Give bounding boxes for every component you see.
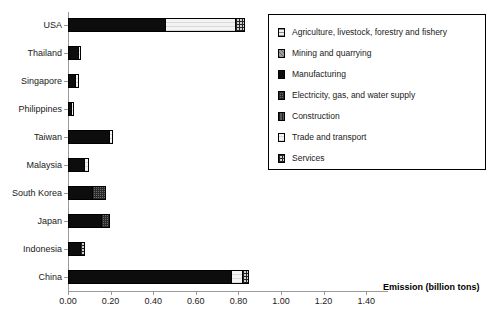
- bar-segment-trade[interactable]: [75, 75, 77, 87]
- bar-segment-manufacturing[interactable]: [69, 19, 165, 31]
- x-axis-tick: [68, 291, 69, 295]
- bar-segment-electricity[interactable]: [101, 215, 110, 227]
- bar-segment-manufacturing[interactable]: [69, 47, 78, 59]
- stacked-bar[interactable]: [68, 242, 85, 256]
- stacked-bar[interactable]: [68, 130, 113, 144]
- stacked-bar[interactable]: [68, 102, 74, 116]
- legend-swatch-trade-icon: [278, 133, 285, 142]
- legend-item[interactable]: Agriculture, livestock, forestry and fis…: [269, 22, 485, 43]
- legend-swatch-agriculture-icon: [278, 28, 285, 37]
- bar-segment-trade[interactable]: [78, 47, 80, 59]
- category-label-philippines: Philippines: [0, 96, 62, 122]
- legend-swatch-construction-icon: [278, 112, 285, 121]
- category-label-singapore: Singapore: [0, 68, 62, 94]
- x-axis-tick: [366, 291, 367, 295]
- x-axis-tick-label: 1.00: [261, 296, 301, 306]
- bar-segment-manufacturing[interactable]: [69, 243, 80, 255]
- x-axis-tick-label: 1.40: [346, 296, 386, 306]
- stacked-bar[interactable]: [68, 74, 79, 88]
- legend-item[interactable]: Manufacturing: [269, 64, 485, 85]
- x-axis-tick: [196, 291, 197, 295]
- stacked-bar[interactable]: [68, 18, 245, 32]
- bar-segment-manufacturing[interactable]: [69, 159, 84, 171]
- category-label-japan: Japan: [0, 208, 62, 234]
- category-label-china: China: [0, 264, 62, 290]
- bar-segment-trade[interactable]: [84, 159, 88, 171]
- x-axis-tick-label: 0.00: [48, 296, 88, 306]
- legend-box: Agriculture, livestock, forestry and fis…: [268, 14, 486, 170]
- category-label-taiwan: Taiwan: [0, 124, 62, 150]
- bar-segment-manufacturing[interactable]: [69, 215, 101, 227]
- legend-swatch-mining-icon: [278, 49, 285, 58]
- x-axis-tick-label: 0.80: [218, 296, 258, 306]
- legend-label: Construction: [292, 112, 340, 121]
- legend-item[interactable]: Services: [269, 148, 485, 169]
- stacked-bar[interactable]: [68, 46, 81, 60]
- bar-segment-trade[interactable]: [71, 103, 73, 115]
- legend-label: Manufacturing: [292, 70, 346, 79]
- bar-segment-services[interactable]: [242, 271, 248, 283]
- stacked-bar[interactable]: [68, 158, 89, 172]
- x-axis-line: [68, 291, 388, 292]
- legend-label: Electricity, gas, and water supply: [292, 91, 415, 100]
- x-axis-tick-label: 0.40: [133, 296, 173, 306]
- category-label-south-korea: South Korea: [0, 180, 62, 206]
- legend-swatch-electricity-icon: [278, 91, 285, 100]
- category-label-usa: USA: [0, 12, 62, 38]
- x-axis-tick: [111, 291, 112, 295]
- bar-segment-trade[interactable]: [231, 271, 242, 283]
- legend-item[interactable]: Mining and quarrying: [269, 43, 485, 64]
- x-axis-tick-label: 0.60: [176, 296, 216, 306]
- x-axis-tick-label: 1.20: [304, 296, 344, 306]
- bar-segment-trade[interactable]: [165, 19, 235, 31]
- stacked-bar[interactable]: [68, 186, 106, 200]
- x-axis-title: Emission (billion tons): [383, 282, 480, 292]
- bar-segment-manufacturing[interactable]: [69, 271, 231, 283]
- bar-segment-manufacturing[interactable]: [69, 187, 92, 199]
- stacked-bar[interactable]: [68, 270, 249, 284]
- legend-item[interactable]: Electricity, gas, and water supply: [269, 85, 485, 106]
- bar-segment-electricity[interactable]: [92, 187, 105, 199]
- bar-segment-trade[interactable]: [109, 131, 111, 143]
- legend-item[interactable]: Construction: [269, 106, 485, 127]
- legend-label: Services: [292, 154, 325, 163]
- x-axis-tick: [324, 291, 325, 295]
- legend-swatch-services-icon: [278, 154, 285, 163]
- category-label-malaysia: Malaysia: [0, 152, 62, 178]
- bar-segment-services[interactable]: [235, 19, 244, 31]
- bar-segment-services[interactable]: [80, 243, 84, 255]
- legend-label: Agriculture, livestock, forestry and fis…: [292, 28, 447, 37]
- x-axis-tick: [281, 291, 282, 295]
- legend-label: Trade and transport: [292, 133, 366, 142]
- category-label-indonesia: Indonesia: [0, 236, 62, 262]
- legend-swatch-manufacturing-icon: [278, 70, 285, 79]
- legend-item[interactable]: Trade and transport: [269, 127, 485, 148]
- stacked-bar[interactable]: [68, 214, 110, 228]
- x-axis-tick-label: 0.20: [91, 296, 131, 306]
- legend-items: Agriculture, livestock, forestry and fis…: [269, 22, 485, 169]
- chart-root: USAThailandSingaporePhilippinesTaiwanMal…: [0, 0, 493, 324]
- bar-segment-manufacturing[interactable]: [69, 131, 109, 143]
- x-axis-tick: [238, 291, 239, 295]
- legend-label: Mining and quarrying: [292, 49, 371, 58]
- x-axis-tick: [153, 291, 154, 295]
- category-label-thailand: Thailand: [0, 40, 62, 66]
